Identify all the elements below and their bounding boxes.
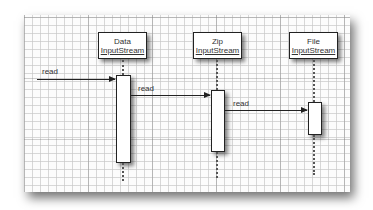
- participant-label-line2: InputStream: [101, 46, 145, 55]
- message-label-read-2: read: [138, 84, 154, 93]
- activation-bar-zip-inputstream: [211, 90, 225, 152]
- participant-zip-inputstream: Zip InputStream: [193, 32, 242, 59]
- lifeline-data-inputstream-top: [122, 60, 124, 75]
- message-arrow-read-3: [224, 110, 307, 111]
- lifeline-zip-inputstream-bottom: [216, 152, 218, 178]
- activation-bar-file-inputstream: [308, 102, 322, 135]
- message-arrow-read-2: [130, 95, 210, 96]
- participant-label-line2: InputStream: [292, 46, 336, 55]
- participant-label-line2: InputStream: [196, 46, 240, 55]
- message-label-read-3: read: [233, 99, 249, 108]
- participant-data-inputstream: Data InputStream: [98, 32, 147, 59]
- lifeline-zip-inputstream-top: [216, 60, 218, 90]
- participant-label-line1: Data: [114, 37, 131, 46]
- lifeline-file-inputstream-top: [313, 60, 315, 102]
- lifeline-data-inputstream-bottom: [122, 163, 124, 181]
- participant-label-line1: File: [307, 37, 320, 46]
- message-arrow-read-1: [37, 79, 115, 80]
- participant-label-line1: Zip: [212, 37, 223, 46]
- lifeline-file-inputstream-bottom: [313, 135, 315, 175]
- activation-bar-data-inputstream: [116, 75, 131, 163]
- participant-file-inputstream: File InputStream: [289, 32, 338, 59]
- message-label-read-1: read: [42, 67, 58, 76]
